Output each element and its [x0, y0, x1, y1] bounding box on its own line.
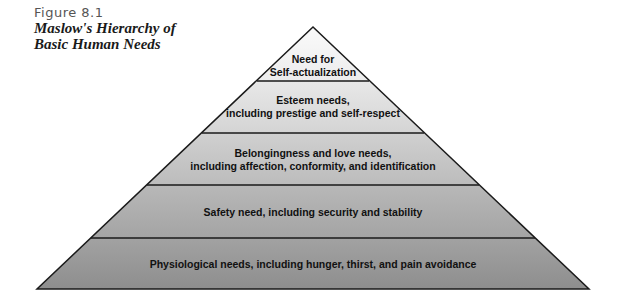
label-self-actualization: Need for Self-actualization	[0, 53, 626, 79]
level-text-line: Need for	[0, 53, 626, 66]
label-safety: Safety need, including security and stab…	[0, 206, 626, 219]
level-text-line: Belongingness and love needs,	[0, 147, 626, 160]
label-esteem: Esteem needs, including prestige and sel…	[0, 94, 626, 120]
label-physiological: Physiological needs, including hunger, t…	[0, 258, 626, 271]
level-text-line: Esteem needs,	[0, 94, 626, 107]
label-belongingness: Belongingness and love needs, including …	[0, 147, 626, 173]
level-text-line: including affection, conformity, and ide…	[0, 160, 626, 173]
level-text-line: Safety need, including security and stab…	[0, 206, 626, 219]
level-text-line: including prestige and self-respect	[0, 107, 626, 120]
level-text-line: Physiological needs, including hunger, t…	[0, 258, 626, 271]
level-text-line: Self-actualization	[0, 66, 626, 79]
